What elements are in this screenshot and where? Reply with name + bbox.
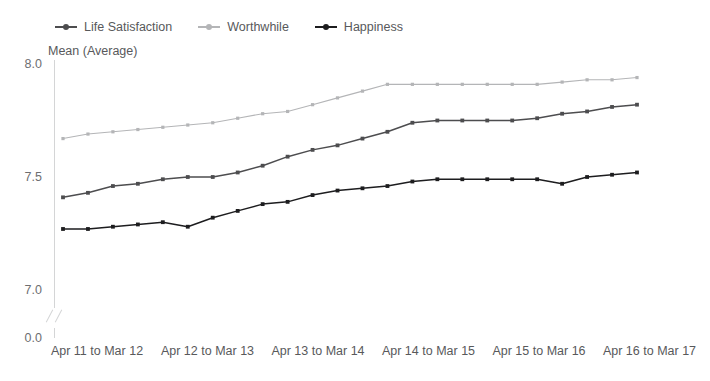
data-point-marker	[560, 112, 564, 116]
data-point-marker	[336, 143, 340, 147]
data-point-marker	[410, 121, 414, 125]
data-point-marker	[161, 177, 165, 181]
data-point-marker	[535, 116, 539, 120]
series-line	[63, 78, 637, 139]
data-point-marker	[560, 182, 564, 186]
data-point-marker	[635, 171, 639, 175]
series-line	[63, 105, 637, 198]
data-point-marker	[535, 177, 539, 181]
data-point-marker	[236, 117, 239, 120]
data-point-marker	[610, 78, 613, 81]
y-tick-label: 7.0	[0, 284, 42, 296]
data-point-marker	[261, 112, 264, 115]
data-point-marker	[161, 126, 164, 129]
data-point-marker	[211, 175, 215, 179]
data-point-marker	[61, 137, 64, 140]
data-point-marker	[311, 103, 314, 106]
data-point-marker	[111, 184, 115, 188]
data-point-marker	[485, 177, 489, 181]
data-point-marker	[61, 195, 65, 199]
chart-legend: Life Satisfaction Worthwhile Happiness	[55, 18, 403, 36]
data-point-marker	[585, 110, 589, 114]
data-point-marker	[236, 171, 240, 175]
data-point-marker	[410, 180, 414, 184]
y-tick-label: 7.5	[0, 171, 42, 183]
data-point-marker	[361, 186, 365, 190]
data-point-marker	[136, 128, 139, 131]
series-line	[63, 172, 637, 228]
data-point-marker	[585, 175, 589, 179]
data-point-marker	[585, 78, 588, 81]
legend-label: Happiness	[344, 20, 403, 34]
data-point-marker	[186, 175, 190, 179]
data-point-marker	[211, 121, 214, 124]
series-life-satisfaction	[61, 103, 639, 199]
data-point-marker	[511, 83, 514, 86]
series-lines	[55, 60, 637, 305]
data-point-marker	[236, 209, 240, 213]
data-point-marker	[286, 155, 290, 159]
data-point-marker	[261, 202, 265, 206]
data-point-marker	[361, 90, 364, 93]
data-point-marker	[435, 177, 439, 181]
wellbeing-line-chart: Life Satisfaction Worthwhile Happiness M…	[0, 0, 710, 381]
data-point-marker	[111, 225, 115, 229]
data-point-marker	[286, 200, 290, 204]
data-point-marker	[386, 184, 390, 188]
data-point-marker	[261, 164, 265, 168]
data-point-marker	[186, 123, 189, 126]
data-point-marker	[386, 83, 389, 86]
y-axis-title: Mean (Average)	[48, 44, 137, 58]
data-point-marker	[136, 182, 140, 186]
data-point-marker	[610, 105, 614, 109]
data-point-marker	[510, 177, 514, 181]
data-point-marker	[635, 103, 639, 107]
data-point-marker	[211, 216, 215, 220]
data-point-marker	[485, 119, 489, 123]
data-point-marker	[186, 225, 190, 229]
legend-label: Life Satisfaction	[84, 20, 172, 34]
data-point-marker	[411, 83, 414, 86]
data-point-marker	[311, 193, 315, 197]
data-point-marker	[61, 227, 65, 231]
y-tick-label: 0.0	[0, 332, 42, 344]
axis-break-icon	[46, 300, 64, 338]
data-point-marker	[610, 173, 614, 177]
y-tick-label: 8.0	[0, 58, 42, 70]
legend-marker-icon	[315, 22, 337, 32]
data-point-marker	[460, 119, 464, 123]
legend-marker-icon	[198, 22, 220, 32]
data-point-marker	[461, 83, 464, 86]
legend-item-life-satisfaction[interactable]: Life Satisfaction	[55, 20, 172, 34]
data-point-marker	[510, 119, 514, 123]
data-point-marker	[286, 110, 289, 113]
series-happiness	[61, 171, 639, 231]
data-point-marker	[486, 83, 489, 86]
data-point-marker	[111, 130, 114, 133]
data-point-marker	[311, 148, 315, 152]
data-point-marker	[336, 96, 339, 99]
data-point-marker	[436, 83, 439, 86]
data-point-marker	[336, 189, 340, 193]
x-tick-label: Apr 16 to Mar 17	[566, 344, 710, 358]
legend-marker-icon	[55, 22, 77, 32]
data-point-marker	[460, 177, 464, 181]
data-point-marker	[561, 80, 564, 83]
legend-item-worthwhile[interactable]: Worthwhile	[198, 20, 289, 34]
data-point-marker	[635, 76, 638, 79]
data-point-marker	[86, 132, 89, 135]
data-point-marker	[161, 220, 165, 224]
data-point-marker	[536, 83, 539, 86]
data-point-marker	[435, 119, 439, 123]
data-point-marker	[86, 227, 90, 231]
data-point-marker	[386, 130, 390, 134]
legend-label: Worthwhile	[227, 20, 289, 34]
legend-item-happiness[interactable]: Happiness	[315, 20, 403, 34]
data-point-marker	[361, 137, 365, 141]
data-point-marker	[86, 191, 90, 195]
data-point-marker	[136, 223, 140, 227]
plot-area	[55, 60, 637, 305]
series-worthwhile	[61, 76, 638, 140]
